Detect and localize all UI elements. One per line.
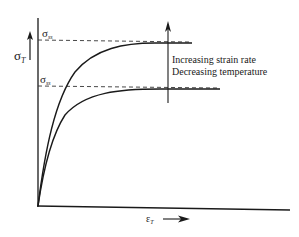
y-axis-arrow-icon <box>27 31 33 60</box>
x-axis <box>37 206 290 210</box>
annotation-line-2: Decreasing temperature <box>172 66 268 77</box>
upper-curve <box>38 43 192 206</box>
lower-curve <box>38 89 220 206</box>
y-axis-label: σT <box>14 48 26 65</box>
upper-plateau-dashed-line <box>38 40 190 42</box>
lower-plateau-dashed-line <box>38 86 218 88</box>
upper-plateau-label: σss <box>42 27 53 40</box>
x-axis-arrow-icon <box>163 216 190 223</box>
x-axis-label: εT <box>146 213 154 225</box>
annotation-line-1: Increasing strain rate <box>172 54 256 65</box>
lower-plateau-label: σss <box>40 73 51 86</box>
stress-strain-diagram: σT σss σss Increasing strain rate Decrea… <box>0 0 299 237</box>
